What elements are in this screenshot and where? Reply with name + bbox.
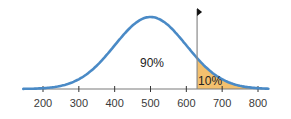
x-tick-label: 600 xyxy=(177,97,195,109)
bell-curve xyxy=(23,17,268,89)
label-10-percent: 10% xyxy=(198,74,222,88)
x-tick-label: 500 xyxy=(141,97,159,109)
x-tick-label: 800 xyxy=(249,97,267,109)
x-tick-label: 400 xyxy=(105,97,123,109)
normal-distribution-chart: 200300400500600700800 90% 10% xyxy=(0,0,291,119)
x-tick-label: 200 xyxy=(34,97,52,109)
x-tick-label: 700 xyxy=(213,97,231,109)
label-90-percent: 90% xyxy=(140,56,164,70)
flag-icon xyxy=(197,8,202,16)
x-tick-label: 300 xyxy=(70,97,88,109)
